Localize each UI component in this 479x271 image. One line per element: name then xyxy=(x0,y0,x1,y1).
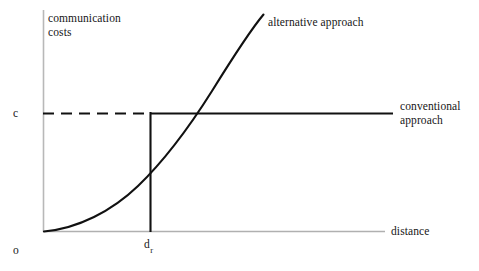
y-axis-caption-line1: communication xyxy=(48,12,121,24)
origin-label: o xyxy=(13,243,19,257)
y-axis-caption: communicationcosts xyxy=(48,11,121,39)
x-tick-label-dr-base: d xyxy=(144,238,150,250)
conventional-approach-label-line2: approach xyxy=(400,114,443,126)
conventional-approach-label-line1: conventional xyxy=(400,100,461,112)
y-axis-caption-line2: costs xyxy=(48,26,72,38)
diagram-canvas: communicationcosts alternative approach … xyxy=(0,0,479,271)
x-axis-caption: distance xyxy=(391,224,429,238)
x-tick-label-dr-subscript: r xyxy=(150,245,153,255)
conventional-approach-label: conventionalapproach xyxy=(400,99,461,127)
y-tick-label-c: c xyxy=(13,106,18,120)
alternative-approach-curve xyxy=(44,15,264,232)
x-tick-label-dr: dr xyxy=(144,237,153,255)
alternative-approach-label: alternative approach xyxy=(268,15,364,29)
